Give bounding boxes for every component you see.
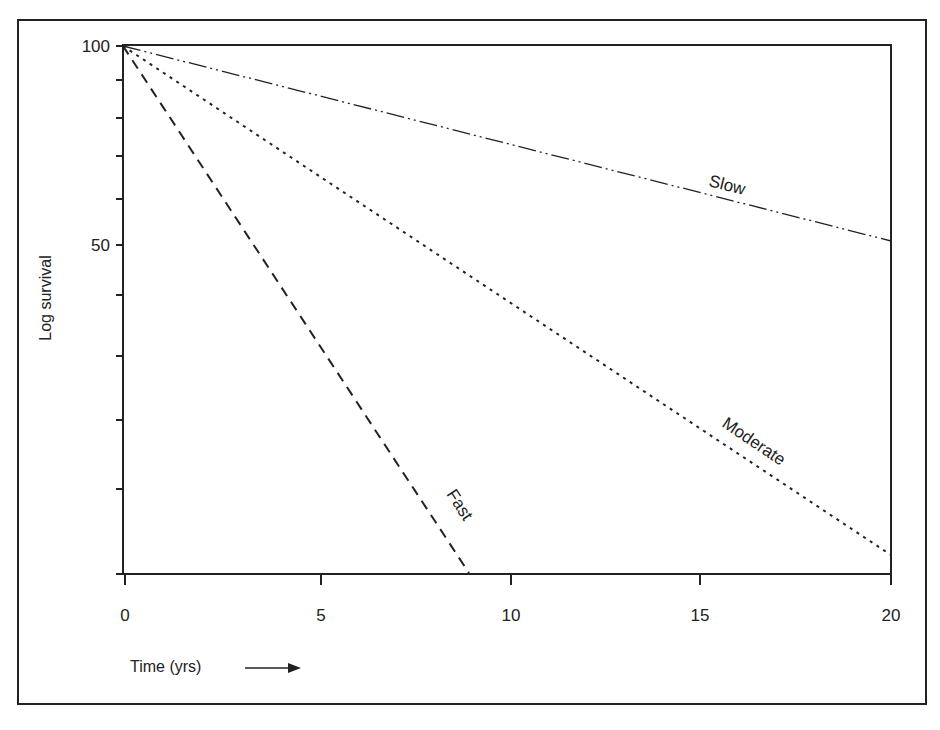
x-axis-title: Time (yrs): [130, 658, 201, 675]
series-label-moderate: Moderate: [719, 414, 789, 470]
x-axis-ticks: [125, 574, 891, 585]
series-fast-line: [123, 46, 469, 573]
chart: 100 50 0 5 10 15 20 Log survival Time (y…: [0, 0, 940, 730]
series-label-slow: Slow: [707, 171, 748, 199]
x-tick-15: 15: [691, 606, 710, 625]
series-slow-line: [123, 46, 891, 241]
plot-area: [123, 45, 891, 574]
x-tick-5: 5: [316, 606, 325, 625]
y-axis-ticks: [116, 46, 123, 574]
x-tick-0: 0: [120, 606, 129, 625]
series-moderate-line: [123, 46, 891, 555]
x-tick-20: 20: [882, 606, 901, 625]
series-label-fast: Fast: [443, 486, 477, 524]
x-tick-10: 10: [502, 606, 521, 625]
y-tick-100: 100: [82, 37, 110, 56]
arrow-right-icon: [245, 663, 301, 673]
y-axis-title: Log survival: [37, 255, 54, 340]
y-tick-50: 50: [91, 236, 110, 255]
